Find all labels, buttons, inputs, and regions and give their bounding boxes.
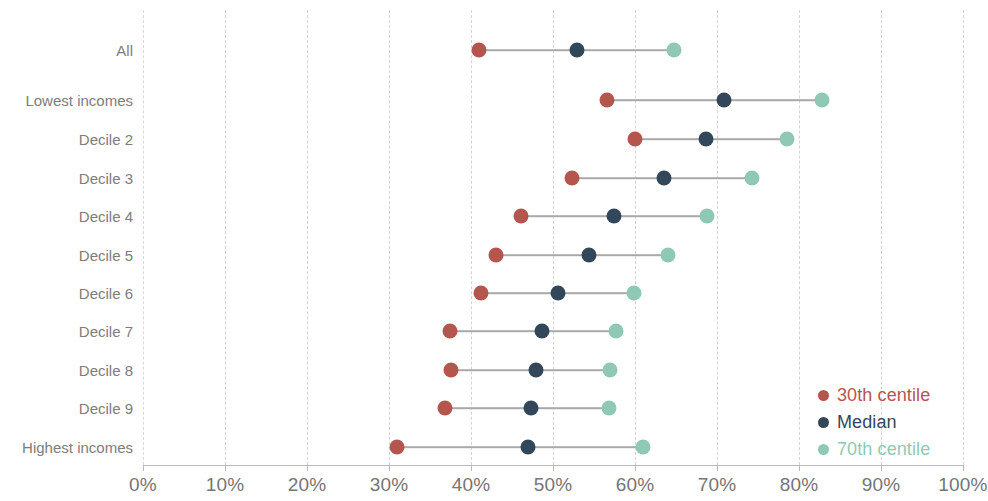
data-point[interactable] [444,363,459,378]
category-label: Decile 6 [0,285,133,302]
legend-dot-icon [818,417,829,428]
legend-item[interactable]: 70th centile [818,436,930,463]
x-axis-tick-label: 100% [938,474,987,496]
x-axis-tick-label: 20% [288,474,327,496]
gridline [963,10,964,465]
x-axis-tick-label: 60% [616,474,655,496]
data-point[interactable] [514,209,529,224]
category-label: Decile 7 [0,323,133,340]
legend-item[interactable]: 30th centile [818,382,930,409]
range-connector [607,99,822,101]
data-point[interactable] [602,363,617,378]
x-axis-tick [717,465,718,471]
data-point[interactable] [656,171,671,186]
x-axis-tick [471,465,472,471]
category-label: Highest incomes [0,439,133,456]
data-point[interactable] [550,286,565,301]
data-point[interactable] [601,401,616,416]
data-point[interactable] [600,93,615,108]
category-label: Decile 4 [0,208,133,225]
data-point[interactable] [437,401,452,416]
data-point[interactable] [442,324,457,339]
x-axis-tick [389,465,390,471]
category-label: All [0,42,133,59]
data-point[interactable] [582,248,597,263]
x-axis-tick [635,465,636,471]
x-axis-tick-label: 80% [780,474,819,496]
data-point[interactable] [473,286,488,301]
data-point[interactable] [660,248,675,263]
data-point[interactable] [488,248,503,263]
x-axis-tick-label: 90% [862,474,901,496]
data-point[interactable] [472,43,487,58]
x-axis-tick-label: 10% [206,474,245,496]
data-point[interactable] [390,440,405,455]
x-axis-tick [553,465,554,471]
legend-dot-icon [818,444,829,455]
legend: 30th centileMedian70th centile [818,382,930,463]
data-point[interactable] [528,363,543,378]
x-axis-tick [225,465,226,471]
legend-label: 30th centile [837,385,930,406]
data-point[interactable] [628,132,643,147]
data-point[interactable] [699,132,714,147]
x-axis-tick [963,465,964,471]
category-label: Decile 9 [0,400,133,417]
x-axis-tick [881,465,882,471]
category-label: Decile 3 [0,170,133,187]
x-axis-tick-label: 50% [534,474,573,496]
category-label: Lowest incomes [0,92,133,109]
x-axis-tick [307,465,308,471]
data-point[interactable] [523,401,538,416]
legend-item[interactable]: Median [818,409,930,436]
data-point[interactable] [779,132,794,147]
legend-label: Median [837,412,897,433]
data-point[interactable] [521,440,536,455]
data-point[interactable] [700,209,715,224]
range-connector [450,330,616,332]
x-axis-tick [143,465,144,471]
data-point[interactable] [745,171,760,186]
data-point[interactable] [609,324,624,339]
data-point[interactable] [535,324,550,339]
data-point[interactable] [717,93,732,108]
x-axis-tick-label: 70% [698,474,737,496]
data-point[interactable] [569,43,584,58]
category-label: Decile 5 [0,247,133,264]
data-point[interactable] [667,43,682,58]
data-point[interactable] [636,440,651,455]
data-point[interactable] [564,171,579,186]
data-point[interactable] [627,286,642,301]
legend-dot-icon [818,390,829,401]
x-axis-tick-label: 40% [452,474,491,496]
x-axis-tick-label: 30% [370,474,409,496]
legend-label: 70th centile [837,439,930,460]
data-point[interactable] [814,93,829,108]
category-label: Decile 8 [0,362,133,379]
category-label: Decile 2 [0,131,133,148]
data-point[interactable] [606,209,621,224]
x-axis-tick-label: 0% [129,474,157,496]
x-axis-tick [799,465,800,471]
